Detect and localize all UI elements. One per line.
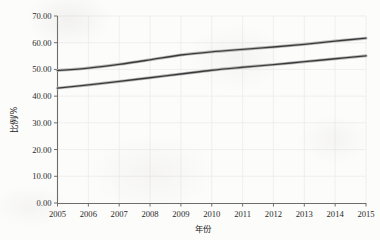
y-tick-label: 0.00 bbox=[36, 198, 51, 208]
x-axis-title: 年份 bbox=[195, 224, 212, 234]
y-tick-label: 40.00 bbox=[32, 91, 51, 101]
y-axis-tick-labels: 0.0010.0020.0030.0040.0050.0060.0070.00 bbox=[32, 11, 51, 208]
x-tick-label: 2010 bbox=[203, 209, 220, 219]
y-tick-label: 20.00 bbox=[32, 145, 51, 155]
y-tick-label: 70.00 bbox=[32, 11, 51, 21]
x-tick-label: 2014 bbox=[327, 209, 345, 219]
x-tick-label: 2011 bbox=[234, 209, 251, 219]
y-tick-label: 10.00 bbox=[32, 171, 51, 181]
y-axis-title: 比例/% bbox=[9, 107, 19, 134]
x-tick-label: 2007 bbox=[111, 209, 129, 219]
line-chart-svg: 0.0010.0020.0030.0040.0050.0060.0070.00 … bbox=[0, 0, 380, 240]
y-tick-label: 50.00 bbox=[32, 64, 51, 74]
x-tick-label: 2013 bbox=[296, 209, 313, 219]
y-tick-label: 30.00 bbox=[32, 118, 51, 128]
chart-figure: 0.0010.0020.0030.0040.0050.0060.0070.00 … bbox=[0, 0, 380, 240]
x-tick-label: 2005 bbox=[49, 209, 66, 219]
y-tick-label: 60.00 bbox=[32, 38, 51, 48]
x-tick-label: 2009 bbox=[172, 209, 189, 219]
vertical-gridlines bbox=[88, 16, 366, 203]
x-axis-tick-labels: 2005200620072008200920102011201220132014… bbox=[49, 209, 375, 219]
x-tick-label: 2006 bbox=[80, 209, 98, 219]
x-tick-label: 2012 bbox=[265, 209, 282, 219]
x-tick-label: 2008 bbox=[141, 209, 158, 219]
x-tick-label: 2015 bbox=[357, 209, 374, 219]
